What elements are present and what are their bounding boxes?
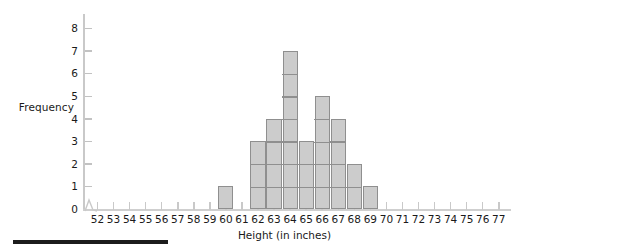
bar-unit-divider [314, 119, 330, 120]
histogram-chart: Frequency 012345678 52535455565758596061… [0, 0, 617, 251]
y-tick-label: 5 [60, 90, 78, 102]
histogram-bar [363, 186, 378, 209]
y-tick: 7 [60, 45, 92, 57]
y-tick-mark [85, 141, 92, 143]
y-tick-label: 6 [60, 67, 78, 79]
histogram-bar [266, 119, 281, 209]
x-axis-line [83, 209, 511, 211]
x-tick-mark [177, 202, 179, 210]
y-tick-label: 0 [60, 203, 78, 215]
y-tick-label: 8 [60, 22, 78, 34]
x-tick-mark [466, 202, 468, 210]
histogram-bar [299, 141, 314, 209]
x-tick-mark [386, 202, 388, 210]
bar-unit-divider [250, 187, 266, 188]
y-tick-mark [85, 186, 92, 188]
bar-unit-divider [330, 187, 346, 188]
y-tick-mark [85, 163, 92, 165]
histogram-bar [250, 141, 265, 209]
bar-unit-divider [282, 187, 298, 188]
bar-unit-divider [282, 141, 298, 142]
bar-unit-divider [282, 164, 298, 165]
histogram-bar [218, 186, 233, 209]
x-tick-mark [434, 202, 436, 210]
y-tick-mark [85, 96, 92, 98]
bar-unit-divider [330, 164, 346, 165]
y-tick: 2 [60, 158, 92, 170]
bar-unit-divider [282, 96, 298, 97]
y-tick-label: 2 [60, 158, 78, 170]
y-tick-mark [85, 50, 92, 52]
bar-unit-divider [282, 74, 298, 75]
y-tick: 8 [60, 22, 92, 34]
x-tick-mark [402, 202, 404, 210]
bar-unit-divider [250, 164, 266, 165]
histogram-bar [331, 119, 346, 209]
bar-unit-divider [298, 187, 314, 188]
y-tick: 5 [60, 90, 92, 102]
y-tick: 6 [60, 67, 92, 79]
bar-unit-divider [282, 119, 298, 120]
y-axis-title: Frequency [8, 101, 74, 113]
y-tick: 3 [60, 135, 92, 147]
x-axis-title-text: Height (in inches) [238, 229, 331, 241]
x-tick-mark [161, 202, 163, 210]
x-tick-mark [241, 202, 243, 210]
x-tick-mark [193, 202, 195, 210]
bar-unit-divider [346, 187, 362, 188]
bar-unit-divider [330, 141, 346, 142]
y-tick: 4 [60, 113, 92, 125]
x-tick-mark [129, 202, 131, 210]
x-tick-label: 77 [486, 213, 512, 225]
bar-unit-divider [314, 187, 330, 188]
x-tick-mark [498, 202, 500, 210]
bar-unit-divider [298, 164, 314, 165]
histogram-bar [315, 96, 330, 209]
bar-unit-divider [266, 187, 282, 188]
bottom-rule [13, 240, 168, 244]
x-tick-mark [145, 202, 147, 210]
histogram-bar [283, 51, 298, 209]
x-tick-mark [113, 202, 115, 210]
x-tick-mark [482, 202, 484, 210]
y-tick: 1 [60, 180, 92, 192]
bar-unit-divider [314, 164, 330, 165]
y-tick-label: 7 [60, 45, 78, 57]
bar-unit-divider [314, 142, 330, 143]
y-tick-label: 3 [60, 135, 78, 147]
x-tick-mark [418, 202, 420, 210]
y-tick-label: 4 [60, 113, 78, 125]
x-tick-mark [209, 202, 211, 210]
y-tick-mark [85, 118, 92, 120]
bar-unit-divider [266, 141, 282, 142]
histogram-bar [347, 164, 362, 209]
axis-break-icon [84, 198, 100, 212]
y-tick-label: 1 [60, 180, 78, 192]
y-tick-mark [85, 28, 92, 30]
y-tick-mark [85, 73, 92, 75]
x-tick-mark [450, 202, 452, 210]
bar-unit-divider [266, 164, 282, 165]
